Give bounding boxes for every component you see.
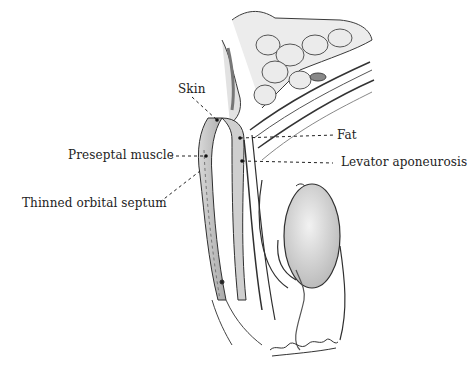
artist-signature (270, 339, 338, 356)
label-fat: Fat (337, 128, 357, 142)
anatomy-illustration: Skin Preseptal muscle Thinned orbital se… (0, 0, 472, 372)
eyelid-section (198, 118, 275, 345)
skin-leader (192, 97, 217, 120)
label-thinned-orbital-septum: Thinned orbital septum (22, 196, 167, 210)
label-levator-aponeurosis: Levator aponeurosis (341, 155, 467, 169)
levator-leader (242, 161, 333, 163)
label-preseptal-muscle: Preseptal muscle (68, 148, 174, 162)
eyelid-drawing (0, 0, 472, 372)
globe (259, 180, 345, 350)
label-skin: Skin (178, 82, 205, 96)
fat-leader (240, 135, 335, 138)
